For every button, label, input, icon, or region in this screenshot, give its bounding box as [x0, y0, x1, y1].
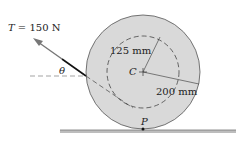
- ground-surface: [60, 130, 236, 133]
- contact-point-dot: [142, 128, 145, 131]
- inner-radius-label: 125 mm: [110, 45, 152, 56]
- center-label: C: [129, 66, 137, 77]
- contact-point-label: P: [140, 116, 148, 127]
- force-label: T = 150 N: [8, 22, 61, 33]
- force-arrow-shaft: [38, 42, 62, 59]
- cord-segment: [62, 59, 86, 76]
- wheel-diagram: T = 150 N θ 125 mm C 200 mm P: [0, 0, 236, 151]
- outer-radius-label: 200 mm: [156, 86, 198, 97]
- angle-label: θ: [59, 65, 65, 76]
